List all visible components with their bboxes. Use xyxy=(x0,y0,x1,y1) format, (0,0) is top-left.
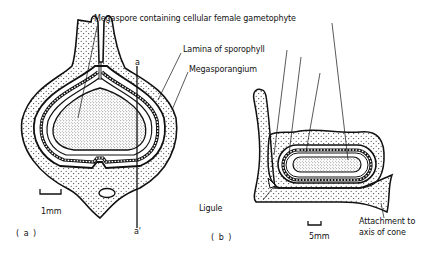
panel-label-a: ( a ) xyxy=(16,229,37,239)
label-attachment-line1: Attachment to xyxy=(359,217,415,227)
panel-a-drawing xyxy=(22,16,177,228)
vascular-bundle xyxy=(99,189,115,198)
scale-label-5mm: 5mm xyxy=(309,232,329,242)
section-label-a-prime: a' xyxy=(134,227,141,237)
label-lamina: Lamina of sporophyll xyxy=(183,45,265,55)
label-attachment-line2: axis of cone xyxy=(359,228,406,238)
label-megasporangium: Megasporangium xyxy=(189,65,257,75)
scale-bar-1mm xyxy=(40,189,61,194)
label-ligule: Ligule xyxy=(199,204,222,214)
megaspore-b xyxy=(293,157,361,172)
scale-bar-5mm xyxy=(308,221,321,225)
scale-label-1mm: 1mm xyxy=(41,207,61,217)
panel-label-b: ( b ) xyxy=(211,233,232,243)
label-megaspore: Megaspore containing cellular female gam… xyxy=(94,14,296,24)
section-label-a: a xyxy=(135,58,140,68)
